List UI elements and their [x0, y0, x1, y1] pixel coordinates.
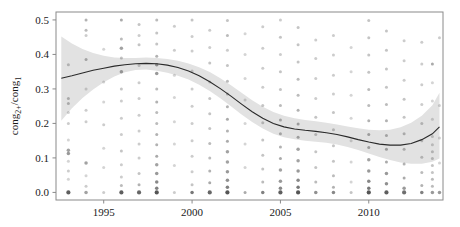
- scatter-point: [191, 87, 194, 90]
- scatter-point: [138, 34, 141, 37]
- scatter-point: [279, 157, 282, 160]
- scatter-point: [350, 46, 353, 49]
- scatter-point: [155, 72, 159, 76]
- scatter-point: [226, 118, 229, 121]
- scatter-point: [85, 18, 88, 21]
- scatter-point: [120, 70, 124, 74]
- scatter-point: [403, 59, 406, 62]
- scatter-point: [403, 176, 406, 179]
- scatter-point: [138, 81, 141, 84]
- scatter-point: [332, 74, 335, 77]
- scatter-point: [420, 41, 423, 44]
- scatter-point: [385, 103, 388, 106]
- scatter-point: [296, 169, 300, 173]
- scatter-point: [297, 136, 300, 139]
- scatter-point: [138, 143, 141, 146]
- scatter-point: [226, 185, 230, 189]
- scatter-point: [438, 136, 441, 139]
- scatter-point: [226, 80, 229, 83]
- scatter-point: [191, 139, 194, 142]
- scatter-point: [431, 185, 434, 188]
- scatter-point: [438, 162, 441, 165]
- scatter-point: [191, 105, 194, 108]
- scatter-point: [84, 161, 88, 165]
- scatter-point: [191, 155, 194, 158]
- scatter-point: [244, 32, 247, 35]
- scatter-point: [84, 191, 88, 195]
- scatter-point: [173, 49, 176, 52]
- x-tick-label: 2000: [181, 206, 204, 218]
- scatter-point: [155, 143, 158, 146]
- scatter-point: [403, 39, 406, 42]
- scatter-point: [138, 64, 141, 67]
- scatter-point: [155, 122, 158, 125]
- scatter-point: [279, 132, 282, 135]
- scatter-point: [138, 114, 141, 117]
- scatter-point: [155, 87, 158, 90]
- scatter-point: [431, 171, 434, 174]
- scatter-point: [402, 190, 406, 194]
- y-tick-label: 0.3: [35, 83, 49, 95]
- scatter-point: [420, 191, 424, 195]
- scatter-point: [208, 62, 211, 65]
- scatter-point: [279, 118, 282, 121]
- scatter-point: [296, 159, 300, 163]
- scatter-point: [350, 161, 353, 164]
- scatter-point: [120, 163, 123, 166]
- scatter-point: [420, 83, 423, 86]
- scatter-point: [279, 88, 282, 91]
- scatter-point: [314, 57, 317, 60]
- scatter-point: [279, 180, 283, 184]
- y-tick-label: 0.1: [35, 152, 49, 164]
- scatter-plot-chart: 1995200020052010 0.00.10.20.30.40.5 cong…: [0, 0, 460, 227]
- scatter-point: [155, 180, 159, 184]
- scatter-point: [226, 130, 229, 133]
- scatter-point: [367, 19, 370, 22]
- scatter-point: [420, 156, 423, 159]
- scatter-point: [403, 98, 406, 101]
- scatter-point: [279, 18, 282, 21]
- y-tick-label: 0.5: [35, 14, 49, 26]
- scatter-point: [350, 191, 353, 194]
- scatter-point: [226, 170, 230, 174]
- scatter-point: [314, 133, 317, 136]
- scatter-point: [431, 150, 434, 153]
- scatter-point: [120, 37, 123, 40]
- scatter-point: [367, 180, 371, 184]
- scatter-point: [208, 29, 211, 32]
- x-tick-label: 2010: [358, 206, 381, 218]
- scatter-point: [155, 43, 158, 46]
- scatter-point: [402, 187, 406, 191]
- scatter-point: [438, 104, 441, 107]
- scatter-point: [420, 184, 423, 187]
- scatter-point: [191, 183, 194, 186]
- scatter-point: [431, 81, 434, 84]
- scatter-point: [120, 56, 123, 59]
- scatter-point: [102, 191, 105, 194]
- svg-text:cong2+/cong1: cong2+/cong1: [8, 77, 23, 135]
- scatter-point: [420, 122, 423, 125]
- scatter-point: [208, 190, 212, 194]
- scatter-point: [155, 187, 159, 191]
- scatter-point: [67, 97, 70, 100]
- scatter-point: [155, 32, 158, 35]
- scatter-point: [438, 191, 442, 195]
- y-tick-label: 0.2: [35, 117, 49, 129]
- scatter-point: [403, 116, 406, 119]
- scatter-point: [85, 87, 88, 90]
- scatter-point: [332, 191, 336, 195]
- scatter-point: [431, 118, 434, 121]
- scatter-point: [67, 63, 70, 66]
- scatter-point: [332, 144, 335, 147]
- scatter-point: [297, 94, 300, 97]
- scatter-point: [138, 172, 141, 175]
- scatter-point: [431, 157, 434, 160]
- scatter-point: [244, 166, 247, 169]
- scatter-point: [155, 190, 159, 194]
- scatter-point: [403, 132, 406, 135]
- scatter-point: [226, 64, 229, 67]
- scatter-point: [85, 58, 88, 61]
- scatter-point: [279, 187, 283, 191]
- x-tick-label: 2005: [269, 206, 292, 218]
- scatter-point: [120, 100, 123, 103]
